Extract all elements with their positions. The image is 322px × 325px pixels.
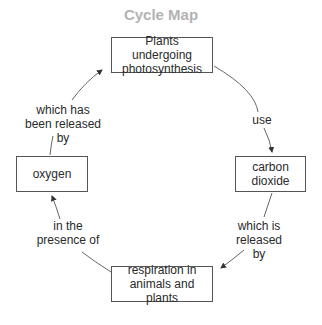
node-label: oxygen xyxy=(33,167,72,181)
node-plants-photosynthesis: Plants undergoing photosynthesis xyxy=(111,37,213,73)
node-label: respiration in animals and plants xyxy=(114,263,210,305)
node-carbon-dioxide: carbon dioxide xyxy=(235,156,306,192)
node-label: Plants undergoing photosynthesis xyxy=(117,34,207,76)
link-label-which-is-released-by: which is released by xyxy=(228,219,290,261)
link-label-in-the-presence-of: in the presence of xyxy=(36,219,100,247)
node-label: carbon dioxide xyxy=(246,160,296,188)
node-oxygen: oxygen xyxy=(16,156,88,192)
node-respiration: respiration in animals and plants xyxy=(111,266,213,302)
link-label-which-has-been-released-by: which has been released by xyxy=(22,103,104,145)
link-label-use: use xyxy=(250,113,274,127)
